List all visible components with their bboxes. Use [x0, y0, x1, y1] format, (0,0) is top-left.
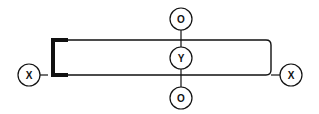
channel-box: [53, 40, 271, 75]
node-label: Y: [178, 53, 185, 64]
node-label: X: [26, 70, 33, 81]
node-label: O: [177, 14, 185, 25]
node-label: X: [288, 70, 295, 81]
node-center-y: Y: [170, 47, 192, 69]
diagram-canvas: X O Y O X: [0, 0, 319, 114]
node-left-x: X: [18, 64, 40, 86]
node-right-x: X: [280, 64, 302, 86]
node-bottom-o: O: [170, 87, 192, 109]
node-label: O: [177, 93, 185, 104]
node-top-o: O: [170, 8, 192, 30]
